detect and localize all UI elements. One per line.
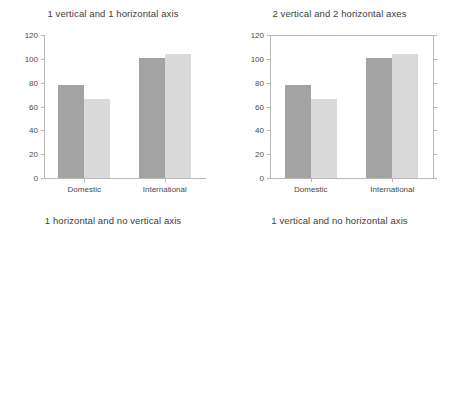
y-tick-label: 0 bbox=[238, 174, 264, 183]
bar-international-series-2 bbox=[392, 54, 418, 178]
y-tick-label: 120 bbox=[12, 31, 38, 40]
y-tick bbox=[267, 130, 270, 131]
y-tick bbox=[41, 83, 44, 84]
y-tick-label: 40 bbox=[238, 126, 264, 135]
y-tick-label: 0 bbox=[12, 174, 38, 183]
y-tick bbox=[267, 83, 270, 84]
y-tick-label: 20 bbox=[12, 150, 38, 159]
x-category-label: Domestic bbox=[68, 185, 101, 194]
x-axis-top bbox=[270, 35, 434, 36]
y-axis-left bbox=[44, 35, 45, 179]
plot-bottom-left: 020406080100120DomesticInternational bbox=[0, 207, 226, 414]
bar-domestic-series-1 bbox=[285, 85, 311, 178]
y-tick bbox=[267, 154, 270, 155]
y-tick-label: 60 bbox=[238, 102, 264, 111]
panel-bottom-right: 1 vertical and no horizontal axis 020406… bbox=[226, 207, 453, 414]
y-tick bbox=[41, 107, 44, 108]
y-tick-label: 80 bbox=[238, 78, 264, 87]
y-tick bbox=[41, 178, 44, 179]
bar-international-series-1 bbox=[366, 58, 392, 178]
bar-domestic-series-2 bbox=[84, 99, 110, 178]
plot-bottom-right: 020406080100120DomesticInternational bbox=[226, 207, 453, 414]
y-axis-left bbox=[270, 35, 271, 179]
y-tick-label: 60 bbox=[12, 102, 38, 111]
plot-top-right: 020406080100120DomesticInternational bbox=[226, 0, 453, 207]
y-tick bbox=[267, 178, 270, 179]
y-tick bbox=[434, 178, 437, 179]
x-tick bbox=[392, 179, 393, 182]
y-tick bbox=[267, 35, 270, 36]
panel-top-left: 1 vertical and 1 horizontal axis 0204060… bbox=[0, 0, 226, 207]
x-category-label: Domestic bbox=[294, 185, 327, 194]
bar-domestic-series-2 bbox=[311, 99, 337, 178]
y-tick bbox=[434, 83, 437, 84]
x-tick bbox=[311, 179, 312, 182]
y-tick bbox=[41, 59, 44, 60]
bar-international-series-2 bbox=[165, 54, 191, 178]
chart-grid: 1 vertical and 1 horizontal axis 0204060… bbox=[0, 0, 453, 414]
y-tick bbox=[434, 59, 437, 60]
y-tick-label: 80 bbox=[12, 78, 38, 87]
y-tick bbox=[434, 35, 437, 36]
y-tick-label: 40 bbox=[12, 126, 38, 135]
plot-top-left: 020406080100120DomesticInternational bbox=[0, 0, 226, 207]
panel-top-right: 2 vertical and 2 horizontal axes 0204060… bbox=[226, 0, 453, 207]
y-tick bbox=[434, 154, 437, 155]
x-tick bbox=[84, 179, 85, 182]
x-category-label: International bbox=[143, 185, 187, 194]
y-tick bbox=[41, 154, 44, 155]
x-tick bbox=[165, 179, 166, 182]
y-tick bbox=[434, 107, 437, 108]
x-axis-bottom bbox=[44, 178, 206, 179]
y-tick bbox=[267, 59, 270, 60]
bar-domestic-series-1 bbox=[58, 85, 84, 178]
bar-international-series-1 bbox=[139, 58, 165, 178]
y-tick-label: 20 bbox=[238, 150, 264, 159]
y-tick-label: 120 bbox=[238, 31, 264, 40]
y-tick bbox=[267, 107, 270, 108]
y-tick-label: 100 bbox=[12, 54, 38, 63]
panel-bottom-left: 1 horizontal and no vertical axis 020406… bbox=[0, 207, 226, 414]
y-tick bbox=[41, 35, 44, 36]
x-category-label: International bbox=[370, 185, 414, 194]
x-axis-bottom bbox=[270, 178, 434, 179]
y-tick bbox=[434, 130, 437, 131]
y-tick-label: 100 bbox=[238, 54, 264, 63]
y-tick bbox=[41, 130, 44, 131]
